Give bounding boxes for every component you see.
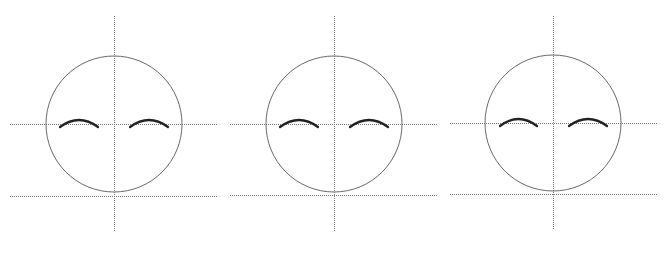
face-2 (230, 16, 438, 231)
face-guides-diagram (0, 0, 669, 260)
left-eyebrow (60, 120, 98, 127)
diagram-canvas (0, 0, 669, 260)
face-3 (450, 16, 657, 230)
face-1 (10, 16, 218, 232)
left-eyebrow (500, 119, 537, 126)
right-eyebrow (350, 120, 388, 127)
right-eyebrow (130, 120, 168, 127)
left-eyebrow (280, 120, 318, 127)
right-eyebrow (569, 119, 607, 126)
